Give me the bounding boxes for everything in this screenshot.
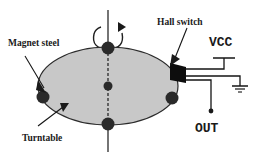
out-terminal-dot bbox=[209, 109, 214, 114]
magnet-bottom bbox=[102, 118, 115, 131]
label-out: OUT bbox=[195, 121, 219, 136]
hall-sensor-diagram: Magnet steel Turntable Hall switch VCC O… bbox=[0, 0, 260, 159]
ground-symbol-icon bbox=[232, 86, 248, 92]
wire-vcc bbox=[186, 58, 224, 69]
turntable-hub bbox=[104, 82, 113, 91]
label-magnet-steel: Magnet steel bbox=[8, 38, 60, 48]
label-hall-switch: Hall switch bbox=[157, 17, 203, 27]
magnet-right bbox=[166, 92, 179, 105]
diagram-root: Magnet steel Turntable Hall switch VCC O… bbox=[0, 0, 260, 159]
hall-switch-block bbox=[170, 63, 186, 83]
label-turntable: Turntable bbox=[22, 133, 62, 143]
magnet-top bbox=[102, 42, 115, 55]
label-vcc: VCC bbox=[209, 35, 233, 50]
leader-hall-switch bbox=[170, 28, 187, 66]
wire-out bbox=[186, 80, 211, 110]
wire-ground bbox=[186, 76, 240, 86]
magnet-left bbox=[37, 91, 50, 104]
